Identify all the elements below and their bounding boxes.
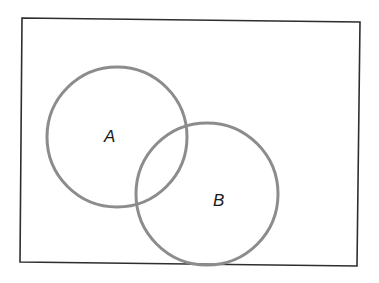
venn-diagram: A B	[0, 0, 379, 283]
universal-set-rectangle	[20, 18, 360, 266]
set-b-label: B	[213, 191, 224, 210]
set-a-label: A	[103, 127, 115, 146]
